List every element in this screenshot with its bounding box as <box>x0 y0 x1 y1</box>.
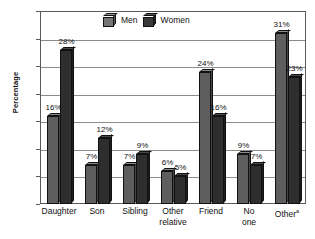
bar-group: 31%23% <box>268 11 306 204</box>
bar-value-label: 23% <box>279 64 311 73</box>
footnote-marker: a <box>296 208 299 214</box>
bar-group: 9%7% <box>230 11 268 204</box>
bar-value-label: 9% <box>228 141 260 150</box>
bar-men-no-one <box>237 154 249 204</box>
bar-front-face <box>98 138 110 204</box>
bar-front-face <box>288 77 300 204</box>
legend-item-men[interactable]: Men <box>103 13 138 27</box>
bar-group: 6%5% <box>154 11 192 204</box>
bar-men-sibling <box>123 165 135 204</box>
bar-front-face <box>237 154 249 204</box>
bar-front-face <box>212 116 224 204</box>
bar-group: 16%28% <box>40 11 78 204</box>
bar-group: 7%12% <box>78 11 116 204</box>
bar-women-sibling <box>136 154 148 204</box>
bar-value-label: 24% <box>190 59 222 68</box>
bar-front-face <box>60 50 72 204</box>
legend-swatch-women-icon <box>143 13 157 27</box>
bar-front-face <box>136 154 148 204</box>
x-tick-label-line: relative <box>146 217 200 228</box>
bar-front-face <box>85 165 97 204</box>
bar-women-daughter <box>60 50 72 204</box>
bar-group: 24%16% <box>192 11 230 204</box>
legend-label-women: Women <box>161 15 190 25</box>
legend-swatch-men-icon <box>103 13 117 27</box>
bars-layer: 16%28%7%12%7%9%6%5%24%16%9%7%31%23% <box>40 11 306 204</box>
bar-front-face <box>161 171 173 204</box>
bar-front-face <box>174 176 186 204</box>
bar-women-other <box>288 77 300 204</box>
bar-women-son <box>98 138 110 204</box>
bar-front-face <box>47 116 59 204</box>
legend-item-women[interactable]: Women <box>143 13 190 27</box>
legend-label-men: Men <box>121 15 138 25</box>
bar-men-son <box>85 165 97 204</box>
bar-women-friend <box>212 116 224 204</box>
bar-top-face <box>60 47 76 50</box>
x-tick-label: Othera <box>260 206 314 219</box>
bar-value-label: 31% <box>266 20 298 29</box>
bar-top-face <box>199 69 215 72</box>
bar-men-daughter <box>47 116 59 204</box>
bar-front-face <box>250 165 262 204</box>
y-axis-title: Percentage <box>11 53 20 133</box>
bar-front-face <box>199 72 211 204</box>
bar-front-face <box>275 33 287 204</box>
bar-men-other <box>275 33 287 204</box>
chart-legend: MenWomen <box>103 13 190 27</box>
bar-women-other-relative <box>174 176 186 204</box>
x-tick-label-line: Othera <box>260 206 314 219</box>
bar-men-other-relative <box>161 171 173 204</box>
bar-women-no-one <box>250 165 262 204</box>
legend-swatch-lface <box>103 17 114 27</box>
bar-men-friend <box>199 72 211 204</box>
bar-front-face <box>123 165 135 204</box>
bar-chart: Percentage 05101520253035 16%28%7%12%7%9… <box>0 0 315 239</box>
x-axis-labels: DaughterSonSiblingOtherrelativeFriendNoo… <box>40 206 306 239</box>
y-tick-mark <box>36 204 40 205</box>
legend-swatch-lface <box>143 17 154 27</box>
bar-group: 7%9% <box>116 11 154 204</box>
